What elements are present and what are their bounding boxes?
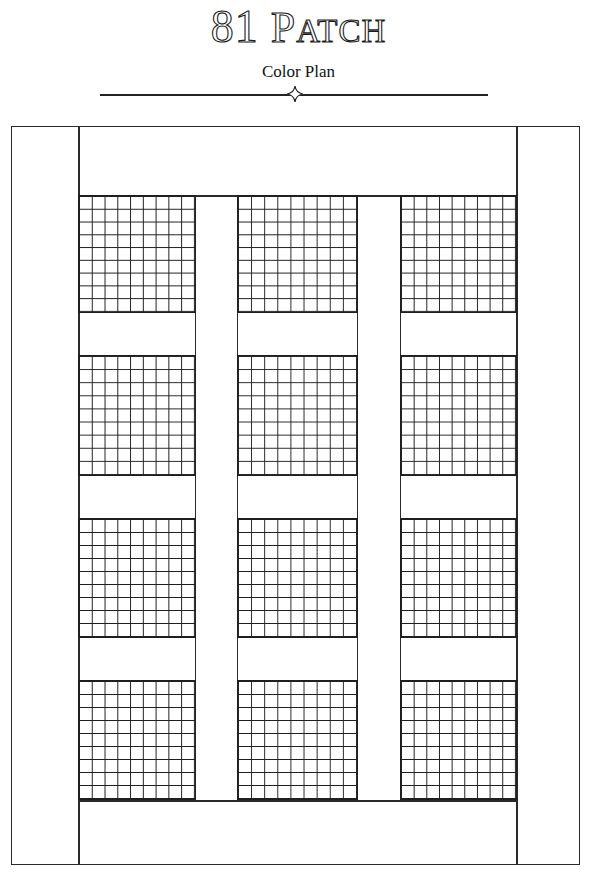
sashing-strip — [78, 476, 196, 518]
patch-block[interactable] — [237, 518, 358, 638]
sashing-strip — [78, 313, 196, 355]
sashing-strip — [400, 313, 517, 355]
patch-block[interactable] — [400, 680, 517, 800]
sashing-strip — [78, 638, 196, 680]
patch-block[interactable] — [237, 355, 358, 476]
patch-block[interactable] — [78, 518, 196, 638]
patch-block[interactable] — [400, 355, 517, 476]
patch-block[interactable] — [78, 680, 196, 800]
star-ornament-icon — [287, 86, 303, 102]
patch-block[interactable] — [237, 680, 358, 800]
patch-block[interactable] — [237, 195, 358, 313]
patch-block[interactable] — [400, 518, 517, 638]
patch-block[interactable] — [78, 195, 196, 313]
sashing-strip — [237, 313, 358, 355]
title-rest: ATCH — [296, 13, 386, 49]
title-initial: P — [271, 3, 296, 52]
title-number: 81 — [211, 1, 259, 52]
patch-block[interactable] — [78, 355, 196, 476]
sashing-strip — [237, 476, 358, 518]
page-title: 81 PATCH — [0, 4, 597, 54]
sashing-strip — [400, 476, 517, 518]
sashing-strip — [237, 638, 358, 680]
subtitle: Color Plan — [0, 62, 597, 82]
patch-block[interactable] — [400, 195, 517, 313]
sashing-strip — [400, 638, 517, 680]
bottom-border-line — [78, 800, 516, 802]
